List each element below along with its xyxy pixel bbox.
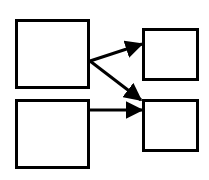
diagram-canvas <box>0 0 209 180</box>
arrow-node-a-to-node-c <box>90 44 142 61</box>
box-top-right <box>142 28 199 81</box>
box-bottom-right <box>142 99 199 152</box>
box-bottom-left <box>15 99 90 169</box>
arrow-node-a-to-node-d <box>90 61 141 100</box>
box-top-left <box>15 19 90 89</box>
